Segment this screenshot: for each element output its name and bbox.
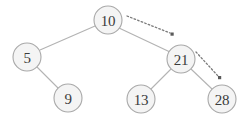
node-label-28: 28 [215, 92, 229, 108]
pointer-arrow-root-right [127, 16, 170, 33]
tree-node-21[interactable]: 21 [167, 45, 195, 73]
tree-node-28[interactable]: 28 [208, 85, 236, 113]
tree-canvas: 10 5 21 9 13 28 [0, 0, 247, 121]
pointer-arrowhead-root-right [171, 33, 174, 36]
bst-diagram: 10 5 21 9 13 28 [0, 0, 247, 121]
node-label-5: 5 [23, 50, 30, 66]
node-label-9: 9 [64, 91, 71, 107]
edge-21-to-13 [151, 69, 171, 89]
node-label-21: 21 [174, 52, 188, 68]
tree-node-9[interactable]: 9 [54, 84, 82, 112]
tree-node-10[interactable]: 10 [94, 6, 122, 34]
node-label-13: 13 [134, 92, 148, 108]
edge-5-to-9 [37, 67, 58, 88]
tree-node-13[interactable]: 13 [127, 85, 155, 113]
edge-21-to-28 [191, 69, 212, 89]
edge-10-to-5 [40, 26, 95, 50]
tree-node-5[interactable]: 5 [13, 43, 41, 71]
node-label-10: 10 [101, 13, 115, 29]
edge-10-to-21 [119, 28, 170, 52]
pointer-arrow-21-right [196, 52, 219, 77]
pointer-arrowhead-21-right [218, 76, 221, 79]
